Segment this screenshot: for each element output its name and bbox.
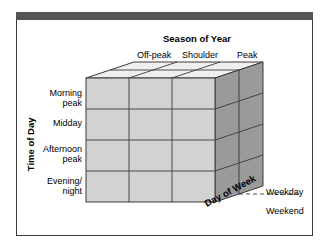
time-tick-morning-peak: Morning peak xyxy=(38,89,82,109)
season-tick-off-peak: Off-peak xyxy=(137,50,171,60)
season-tick-peak: Peak xyxy=(237,50,258,60)
time-tick-morning-peak-line2: peak xyxy=(38,99,82,109)
figure-root: Season of Year Off-peak Shoulder Peak Ti… xyxy=(0,0,329,247)
season-tick-shoulder: Shoulder xyxy=(182,50,218,60)
time-tick-evening-night-line2: night xyxy=(30,187,82,197)
day-tick-weekday: Weekday xyxy=(266,187,303,197)
season-axis-title: Season of Year xyxy=(163,34,231,45)
time-tick-midday-line1: Midday xyxy=(38,119,82,129)
day-tick-weekend: Weekend xyxy=(266,206,304,216)
time-tick-evening-night: Evening/ night xyxy=(30,177,82,197)
time-tick-midday: Midday xyxy=(38,119,82,129)
time-tick-afternoon-peak-line2: peak xyxy=(30,155,82,165)
time-tick-afternoon-peak: Afternoon peak xyxy=(30,145,82,165)
